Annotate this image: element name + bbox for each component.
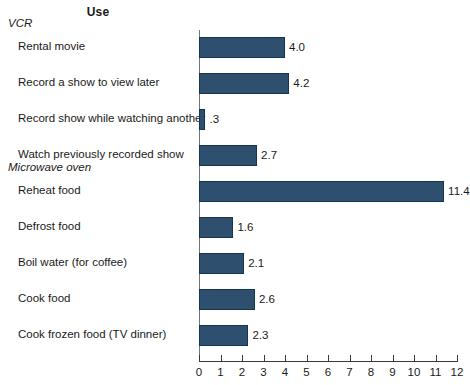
x-axis-tick-label: 6	[318, 366, 338, 378]
x-axis-tick	[199, 355, 200, 362]
category-label: Cook food	[18, 292, 70, 304]
group-heading-vcr: VCR	[8, 17, 32, 29]
category-label: Watch previously recorded show	[18, 148, 184, 160]
x-axis-tick-label: 9	[383, 366, 403, 378]
category-label: Rental movie	[18, 40, 85, 52]
category-label: Defrost food	[18, 220, 81, 232]
x-axis-tick	[350, 355, 351, 362]
x-axis-tick	[221, 355, 222, 362]
group-heading-microwave-oven: Microwave oven	[8, 161, 91, 173]
category-label-column: VCRRental movieRecord a show to view lat…	[0, 0, 197, 385]
x-axis-tick	[264, 355, 265, 362]
x-axis-tick	[242, 355, 243, 362]
bar	[199, 145, 257, 166]
bar	[199, 253, 244, 274]
bar	[199, 73, 289, 94]
bar	[199, 37, 285, 58]
bar-value-label: 2.7	[261, 145, 277, 166]
x-axis-tick	[414, 355, 415, 362]
bar	[199, 217, 233, 238]
x-axis-tick-label: 0	[189, 366, 209, 378]
bar-value-label: 2.1	[248, 253, 264, 274]
bar-value-label: 4.2	[293, 73, 309, 94]
bar	[199, 181, 444, 202]
bar	[199, 325, 248, 346]
bar-value-label: 2.3	[252, 325, 268, 346]
category-label: Reheat food	[18, 184, 81, 196]
bar	[199, 109, 205, 130]
x-axis-tick-label: 12	[447, 366, 467, 378]
bar-value-label: .3	[209, 109, 219, 130]
bar-value-label: 11.4	[448, 181, 470, 202]
category-label: Record show while watching another	[18, 112, 205, 124]
x-axis-tick	[328, 355, 329, 362]
x-axis-tick-label: 1	[211, 366, 231, 378]
x-axis-tick-label: 11	[426, 366, 446, 378]
x-axis-tick-label: 10	[404, 366, 424, 378]
x-axis-tick	[285, 355, 286, 362]
plot-area: 01234567891011124.04.2.32.711.41.62.12.6…	[199, 0, 465, 385]
x-axis-tick	[371, 355, 372, 362]
bar-value-label: 2.6	[259, 289, 275, 310]
x-axis-tick	[457, 355, 458, 362]
x-axis-tick-label: 3	[254, 366, 274, 378]
bar	[199, 289, 255, 310]
x-axis-tick-label: 5	[297, 366, 317, 378]
x-axis-tick	[307, 355, 308, 362]
x-axis-tick	[393, 355, 394, 362]
x-axis-tick-label: 4	[275, 366, 295, 378]
bar-value-label: 1.6	[237, 217, 253, 238]
x-axis-tick-label: 2	[232, 366, 252, 378]
x-axis-tick-label: 7	[340, 366, 360, 378]
bar-value-label: 4.0	[289, 37, 305, 58]
category-label: Record a show to view later	[18, 76, 159, 88]
x-axis-tick-label: 8	[361, 366, 381, 378]
category-label: Cook frozen food (TV dinner)	[18, 328, 166, 340]
category-label: Boil water (for coffee)	[18, 256, 127, 268]
x-axis-tick	[436, 355, 437, 362]
